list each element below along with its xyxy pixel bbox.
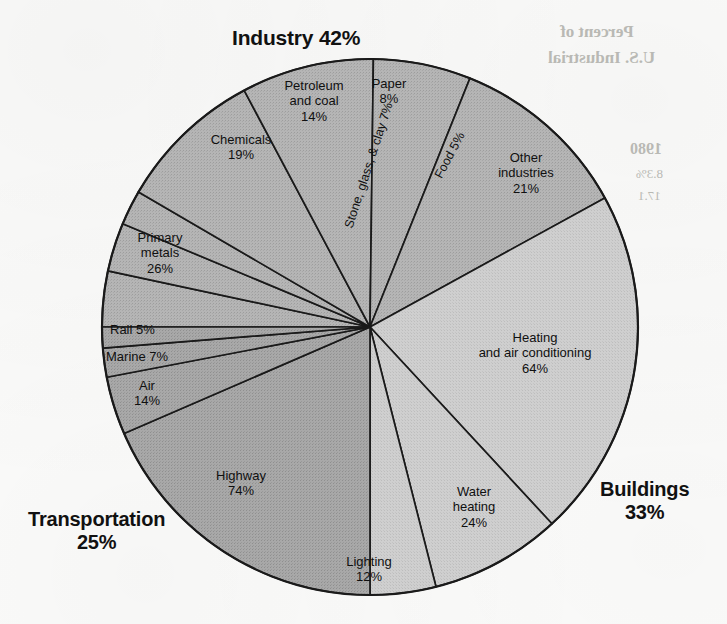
chart-page: Percent of U.S. Industrial 1980 8.3% 17.… <box>0 0 727 624</box>
group-label-buildings: Buildings 33% <box>600 478 689 524</box>
group-label-industry: Industry 42% <box>232 26 360 50</box>
group-label-transportation-value: 25% <box>28 531 165 554</box>
group-label-transportation: Transportation 25% <box>28 508 165 554</box>
group-label-buildings-name: Buildings <box>600 478 689 501</box>
pie-slices <box>102 59 638 595</box>
group-label-transportation-name: Transportation <box>28 508 165 531</box>
group-label-buildings-value: 33% <box>600 501 689 524</box>
